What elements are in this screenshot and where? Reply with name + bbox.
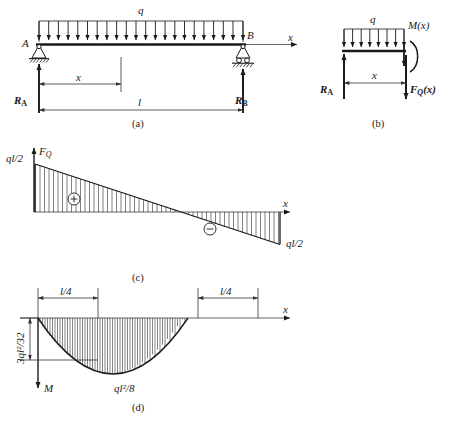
figure-graphics: [0, 0, 457, 424]
negative-sign-marker: [204, 223, 216, 235]
moment-max-label: ql²/8: [114, 383, 134, 394]
shear-label-b: FQ(x): [410, 84, 436, 97]
dimension-x-label-b: x: [372, 70, 377, 81]
distributed-load-arrows-a: [39, 21, 243, 40]
moment-hatch: [40, 318, 185, 374]
moment-y-axis-label: M: [44, 383, 53, 394]
shear-y-axis-label: FQ: [39, 146, 52, 159]
caption-a: (a): [132, 118, 144, 129]
support-b-label: B: [247, 30, 254, 41]
panel-a-graphics: [29, 21, 297, 113]
caption-c: (c): [132, 272, 144, 283]
positive-sign-marker: [68, 193, 80, 205]
reaction-a-label-b: RA: [320, 84, 333, 97]
caption-b: (b): [372, 118, 384, 129]
shear-x-axis-label: x: [283, 198, 288, 209]
moment-label-b: M(x): [408, 20, 429, 31]
support-a-label: A: [22, 38, 29, 49]
reaction-a-label: RA: [14, 95, 27, 108]
caption-d: (d): [132, 402, 144, 413]
load-label-b: q: [370, 14, 376, 25]
panel-d-graphics: [20, 288, 290, 388]
dimension-x-label-a: x: [76, 72, 81, 83]
support-a-pin: [29, 45, 49, 63]
dimension-3ql2-32: [20, 318, 98, 360]
moment-ordinate-label: 3ql²/32: [14, 333, 26, 364]
x-axis-label-a: x: [288, 32, 293, 43]
reaction-b-label: RB: [235, 95, 248, 108]
load-label-a: q: [138, 5, 144, 16]
moment-x-axis-label: x: [283, 304, 288, 315]
shear-value-left: ql/2: [6, 153, 23, 164]
panel-c-graphics: [34, 148, 290, 245]
shear-value-right: ql/2: [286, 238, 303, 249]
support-b-roller: [232, 45, 254, 68]
beam-diagram-figure: q A B x RA RB x l (a) q M(x) RA x FQ(x) …: [0, 0, 457, 424]
moment-parabola: [38, 318, 188, 374]
dimension-l4-left-label: l/4: [60, 286, 72, 297]
distributed-load-arrows-b: [344, 29, 404, 47]
panel-b-graphics: [342, 29, 418, 99]
dimension-l-label-a: l: [138, 97, 141, 108]
dimension-l4-right-label: l/4: [220, 286, 232, 297]
